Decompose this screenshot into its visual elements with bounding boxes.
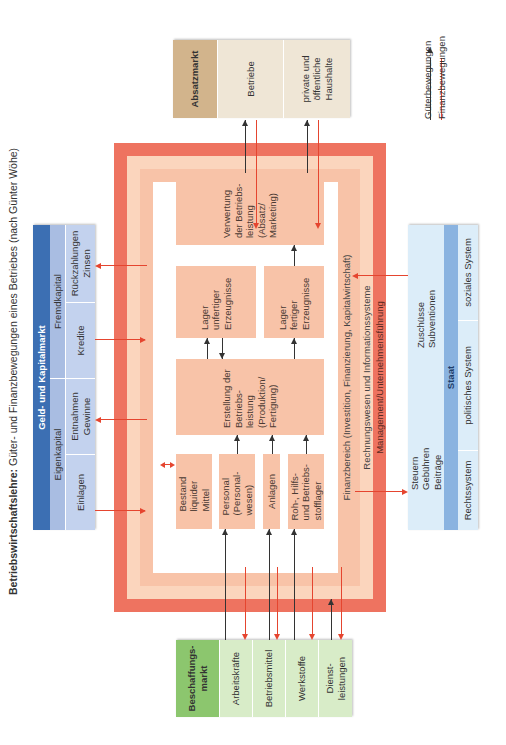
arrowhead-icon xyxy=(234,435,240,441)
lager-fertiger-erzeugnisse-box: Lager fertiger Erzeugnisse xyxy=(264,266,324,338)
arrowhead-icon xyxy=(402,489,408,495)
beschaffungsmarkt-header: Beschaffungs-markt xyxy=(176,640,219,717)
management-label: Management/Unternehmensführung xyxy=(373,143,386,612)
erstellung-betriebsleistung-box: Erstellung der Betriebs-leistung (Produk… xyxy=(176,359,324,435)
arrowhead-icon xyxy=(315,223,321,229)
finance-arrow-dienstleistungen xyxy=(341,567,342,634)
finance-arrow-rueckzahlungen xyxy=(101,265,147,266)
absatz-cell-haushalte: private und öffentliche Haushalte xyxy=(283,40,350,118)
goods-arrow-to-haushalte xyxy=(307,120,308,173)
arrowhead-icon xyxy=(219,353,225,359)
arrowhead-icon xyxy=(95,263,101,269)
arrowhead-icon xyxy=(291,338,297,344)
finanzbereich-label: Finanzbereich (Investition, Finanzierung… xyxy=(340,169,353,586)
finance-arrow-einlagen xyxy=(95,510,145,511)
absatzmarkt-box: Absatzmarkt Betriebe private und öffentl… xyxy=(173,40,350,118)
rechnungswesen-label: Rechnungswesen und Informationssysteme xyxy=(360,156,373,599)
arrowhead-icon xyxy=(291,529,297,535)
legend-goods-label: Güterbewegungen xyxy=(422,41,433,119)
caption-text: Güter- und Finanzbewegungen eines Betrie… xyxy=(7,148,19,469)
beschaffung-cell-arbeitskraefte: Arbeitskräfte xyxy=(219,640,252,717)
absatz-cell-betriebe: Betriebe xyxy=(217,40,283,118)
arrowhead-icon xyxy=(269,435,275,441)
roh-label: Roh-, Hilfs- und Betriebs-stofflager xyxy=(289,463,324,521)
arrowhead-icon xyxy=(304,120,310,126)
legend-finance-label: Finanzbewegungen xyxy=(436,36,447,119)
finance-arrow-from-haushalte xyxy=(318,120,319,223)
anlagen-box: Anlagen xyxy=(263,454,280,529)
arrowhead-icon xyxy=(352,273,358,279)
geldmarkt-cell-entnahmen: Entnahmen Gewinne xyxy=(66,378,95,454)
arrowhead-icon xyxy=(266,529,272,535)
diagram-stage: Betriebswirtschaftslehre: Güter- und Fin… xyxy=(0,0,506,745)
lager-unfertig-label: Lager unfertiger Erzeugnisse xyxy=(199,274,234,330)
arrowhead-icon xyxy=(274,634,280,640)
goods-arrow-to-betriebe xyxy=(245,120,246,173)
personal-label: Personal (Personal-wesen) xyxy=(220,468,255,516)
arrowhead-icon xyxy=(291,245,297,251)
arrowhead-icon xyxy=(160,462,165,468)
finance-arrow-werkstoffe xyxy=(312,567,313,634)
arrowhead-icon xyxy=(242,634,248,640)
staat-cell-zuschuesse: Zuschüsse Subventionen xyxy=(408,225,444,378)
finance-arrow-from-betriebe xyxy=(256,120,257,223)
arrowhead-icon xyxy=(309,634,315,640)
beschaffung-cell-werkstoffe: Werkstoffe xyxy=(285,640,318,717)
geldmarkt-cell-einlagen: Einlagen xyxy=(66,454,95,530)
arrowhead-icon xyxy=(338,634,344,640)
arrowhead-icon xyxy=(242,120,248,126)
staat-box: Steuern Gebühren Beiträge Zuschüsse Subv… xyxy=(408,225,478,530)
goods-arrow-dienstleistungen xyxy=(331,599,332,640)
beschaffungsmarkt-box: Beschaffungs-markt Arbeitskräfte Betrieb… xyxy=(176,640,352,717)
absatzmarkt-header: Absatzmarkt xyxy=(173,40,217,118)
geldmarkt-cell-kredite: Kredite xyxy=(66,302,95,378)
lager-unfertiger-erzeugnisse-box: Lager unfertiger Erzeugnisse xyxy=(176,266,256,338)
staat-system-recht: Rechtssystem xyxy=(458,450,478,530)
geldmarkt-cell-rueckzahlungen: Rückzahlungen Zinsen xyxy=(66,225,95,302)
personal-box: Personal (Personal-wesen) xyxy=(219,454,255,529)
staat-system-politik: politisches System xyxy=(458,320,478,450)
beschaffung-cell-dienstleistungen: Dienst-leistungen xyxy=(318,640,352,717)
erstellung-label: Erstellung der Betriebs-leistung (Produk… xyxy=(221,366,279,428)
finance-arrow-kredite xyxy=(95,339,145,340)
finance-arrow-zuschuesse xyxy=(358,275,408,276)
arrowhead-icon xyxy=(222,529,228,535)
finance-arrow-entnahmen xyxy=(101,419,147,420)
goods-arrow-betriebsmittel xyxy=(269,529,270,640)
arrowhead-icon xyxy=(95,417,101,423)
goods-arrow-werkstoffe xyxy=(294,529,295,640)
roh-hilfs-betriebsstofflager-box: Roh-, Hilfs- und Betriebs-stofflager xyxy=(288,454,324,529)
beschaffung-cell-betriebsmittel: Betriebsmittel xyxy=(252,640,285,717)
staat-header: Staat xyxy=(444,225,458,530)
geldmarkt-group-eigenkapital: Eigenkapital xyxy=(50,378,66,530)
caption-bold: Betriebswirtschaftslehre: xyxy=(7,469,19,595)
geldmarkt-group-fremdkapital: Fremdkapital xyxy=(50,225,66,378)
bestand-liquider-mittel-box: Bestand liquider Mittel xyxy=(176,454,212,529)
arrowhead-icon xyxy=(140,508,146,514)
arrowhead-icon xyxy=(303,435,309,441)
arrowhead-icon xyxy=(253,223,259,229)
arrowhead-icon xyxy=(170,462,175,468)
bestand-label: Bestand liquider Mittel xyxy=(177,472,212,512)
finance-arrow-arbeitskraefte xyxy=(245,567,246,634)
finance-arrow-steuern xyxy=(355,491,406,492)
lager-fertig-label: Lager fertiger Erzeugnisse xyxy=(277,274,312,330)
geld-kapitalmarkt-box: Geld- und Kapitalmarkt Eigenkapital Frem… xyxy=(33,225,95,530)
geldmarkt-header: Geld- und Kapitalmarkt xyxy=(33,225,50,530)
staat-system-sozial: soziales System xyxy=(458,225,478,320)
verwertung-label: Verwertung der Betriebs-leistung (Absatz… xyxy=(221,180,279,238)
arrowhead-icon xyxy=(204,338,210,344)
finance-arrow-betriebsmittel xyxy=(277,567,278,634)
arrowhead-icon xyxy=(140,337,146,343)
figure-caption: Betriebswirtschaftslehre: Güter- und Fin… xyxy=(7,148,19,595)
staat-cell-steuern: Steuern Gebühren Beiträge xyxy=(408,378,444,530)
goods-arrow-arbeitskraefte xyxy=(225,529,226,640)
anlagen-label: Anlagen xyxy=(266,474,278,509)
verwertung-betriebsleistung-box: Verwertung der Betriebs-leistung (Absatz… xyxy=(176,173,324,245)
arrowhead-icon xyxy=(328,599,334,605)
